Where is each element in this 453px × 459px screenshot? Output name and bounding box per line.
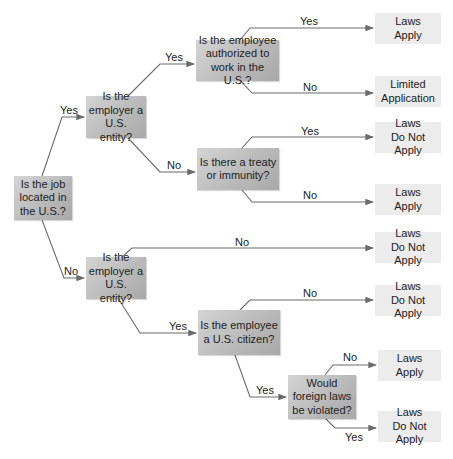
edge-treaty-yes xyxy=(242,137,373,148)
outcome-text: Laws Do Not Apply xyxy=(390,280,426,321)
edge-label-job-yes: Yes xyxy=(60,104,78,116)
outcome-text: Laws Do Not Apply xyxy=(392,406,428,447)
question-text: Is the employer a U.S. entity? xyxy=(88,90,144,144)
edge-emp-bottom-no xyxy=(122,248,373,257)
outcome-text: Laws Apply xyxy=(388,15,428,42)
question-text: Is there a treaty or immunity? xyxy=(199,156,277,183)
edge-foreign-yes xyxy=(325,418,376,428)
question-employee-authorized: Is the employee authorized to work in th… xyxy=(196,40,279,81)
outcome-text: Laws Do Not Apply xyxy=(390,227,426,268)
outcome-text: Laws Apply xyxy=(390,352,430,379)
outcome-laws-do-not-apply-4: Laws Do Not Apply xyxy=(378,411,441,442)
edge-job-yes xyxy=(42,117,84,176)
outcome-laws-apply-2: Laws Apply xyxy=(375,184,441,215)
question-employer-us-entity-top: Is the employer a U.S. entity? xyxy=(86,96,146,138)
edge-label-auth-no: No xyxy=(303,81,317,93)
edge-label-citizen-yes: Yes xyxy=(256,384,274,396)
edge-foreign-no xyxy=(325,365,376,375)
edge-label-citizen-no: No xyxy=(303,287,317,299)
question-text: Is the employee a U.S. citizen? xyxy=(200,319,278,346)
outcome-text: Laws Do Not Apply xyxy=(390,117,426,158)
question-text: Is the employer a U.S. entity? xyxy=(88,251,144,305)
outcome-limited-application: Limited Application xyxy=(375,76,441,107)
question-text: Is the job located in the U.S.? xyxy=(16,178,70,219)
outcome-laws-apply-3: Laws Apply xyxy=(378,350,441,381)
edge-label-emp-top-no: No xyxy=(167,159,181,171)
outcome-laws-do-not-apply-2: Laws Do Not Apply xyxy=(375,232,441,263)
edge-label-emp-bottom-no: No xyxy=(235,236,249,248)
question-employee-citizen: Is the employee a U.S. citizen? xyxy=(198,310,280,355)
outcome-text: Limited Application xyxy=(377,78,439,105)
edge-label-emp-top-yes: Yes xyxy=(165,51,183,63)
edge-label-treaty-no: No xyxy=(303,189,317,201)
edge-label-foreign-yes: Yes xyxy=(345,431,363,443)
edge-label-auth-yes: Yes xyxy=(300,15,318,27)
outcome-laws-apply-1: Laws Apply xyxy=(375,13,441,44)
edge-label-job-no: No xyxy=(64,265,78,277)
outcome-laws-do-not-apply-1: Laws Do Not Apply xyxy=(375,122,441,153)
question-treaty-immunity: Is there a treaty or immunity? xyxy=(197,148,279,190)
edge-label-emp-bottom-yes: Yes xyxy=(169,320,187,332)
outcome-laws-do-not-apply-3: Laws Do Not Apply xyxy=(375,285,441,316)
question-employer-us-entity-bottom: Is the employer a U.S. entity? xyxy=(86,257,146,299)
question-job-location: Is the job located in the U.S.? xyxy=(14,176,72,220)
question-text: Would foreign laws be violated? xyxy=(290,377,354,418)
edge-label-treaty-yes: Yes xyxy=(301,125,319,137)
question-text: Is the employee authorized to work in th… xyxy=(198,34,277,88)
edge-label-foreign-no: No xyxy=(343,351,357,363)
outcome-text: Laws Apply xyxy=(388,186,428,213)
question-foreign-laws-violated: Would foreign laws be violated? xyxy=(288,375,356,419)
edge-citizen-no xyxy=(240,300,373,310)
